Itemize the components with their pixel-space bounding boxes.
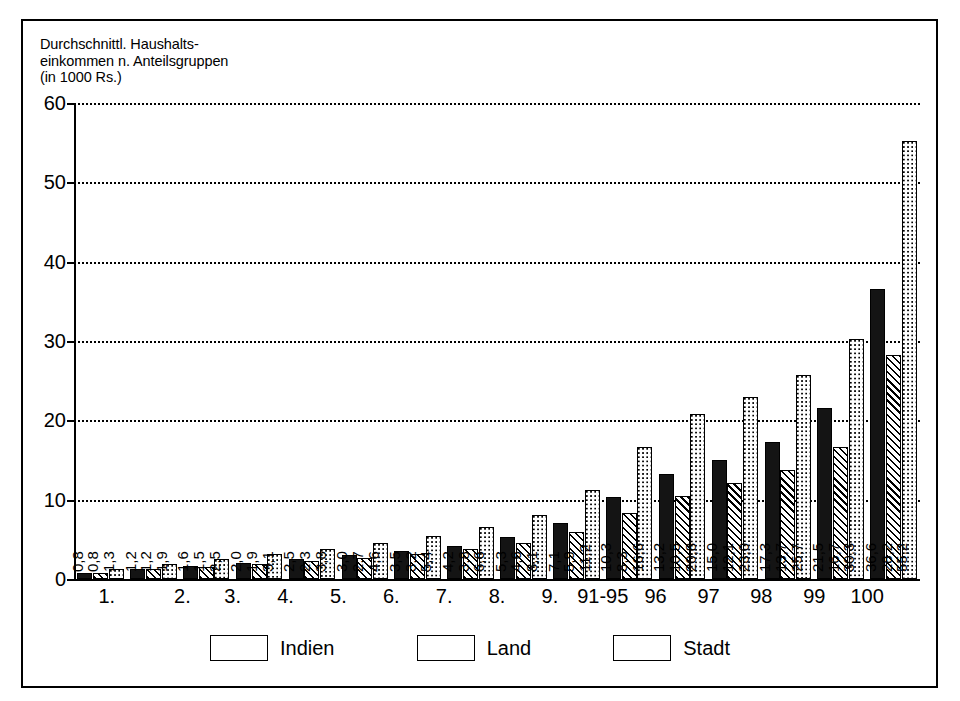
y-axis-labels: 0102030405060 <box>26 103 66 579</box>
bar-value-label: 36,6 <box>863 543 878 572</box>
bar-group: 21,516,730,3 <box>817 103 864 579</box>
bar-value-label: 13,2 <box>651 543 666 572</box>
bar-value-label: 1,2 <box>138 551 153 572</box>
x-axis-tick-label: 2. <box>174 586 191 606</box>
legend-label: Stadt <box>683 638 730 658</box>
bar-value-label: 6,6 <box>471 551 486 572</box>
bar-value-label: 1,9 <box>244 551 259 572</box>
x-axis-tick-label: 96 <box>645 586 667 606</box>
bar-value-label: 5,9 <box>561 551 576 572</box>
y-axis-tick-label: 20 <box>44 410 66 430</box>
x-axis-labels: 1.2.3.4.5.6.7.8.9.91-9596979899100 <box>74 586 920 616</box>
bar-value-label: 16,7 <box>826 543 841 572</box>
chart-figure: Durchschnittl. Haushalts- einkommen n. A… <box>0 0 960 701</box>
bar-group: 0,80,81,3 <box>77 103 124 579</box>
legend-swatch-land <box>417 635 475 661</box>
legend-swatch-indien <box>210 635 268 661</box>
bar-value-label: 11,2 <box>577 544 592 572</box>
bar-group: 36,628,255,2 <box>870 103 917 579</box>
bar-value-label: 30,3 <box>841 543 856 572</box>
legend-swatch-stadt <box>613 635 671 661</box>
y-axis-tick-label: 60 <box>44 93 66 113</box>
bar-group: 2,52,33,8 <box>289 103 336 579</box>
x-axis-tick-label: 98 <box>750 586 772 606</box>
bar-value-label: 28,2 <box>879 543 894 572</box>
x-axis-tick-label: 4. <box>277 586 294 606</box>
bar-value-label: 3,8 <box>313 551 328 572</box>
bar-value-label: 15,0 <box>704 543 719 572</box>
bar-value-label: 25,7 <box>789 543 804 572</box>
y-axis-tick-label: 10 <box>44 490 66 510</box>
bar-value-label: 4,6 <box>508 551 523 572</box>
y-axis-tick <box>67 420 74 422</box>
legend-label: Indien <box>280 638 335 658</box>
y-axis-tick-label: 50 <box>44 172 66 192</box>
bar-value-label: 1,6 <box>175 551 190 572</box>
chart-legend: IndienLandStadt <box>210 630 730 666</box>
bar-group: 1,61,52,5 <box>183 103 230 579</box>
bar-value-label: 2,5 <box>281 551 296 572</box>
bar-group: 1,21,21,9 <box>130 103 177 579</box>
bar-stadt: 55,2 <box>902 141 917 579</box>
bar-value-label: 1,2 <box>123 551 138 572</box>
bar-value-label: 23,0 <box>736 543 751 572</box>
bar-value-label: 13,7 <box>773 543 788 572</box>
bar-value-label: 7,1 <box>546 551 561 572</box>
bar-value-label: 4,2 <box>440 551 455 572</box>
bar-group: 4,23,86,6 <box>447 103 494 579</box>
plot-area: 0,80,81,31,21,21,91,61,52,52,01,93,12,52… <box>74 103 920 579</box>
y-axis-tick-label: 0 <box>55 569 66 589</box>
bar-group: 2,01,93,1 <box>236 103 283 579</box>
bar-value-label: 0,8 <box>70 551 85 572</box>
chart-title: Durchschnittl. Haushalts- einkommen n. A… <box>40 36 460 86</box>
bar-value-label: 17,3 <box>757 543 772 572</box>
bar-value-label: 2,0 <box>228 551 243 572</box>
legend-item: Land <box>417 635 532 661</box>
bar-group: 17,313,725,7 <box>765 103 812 579</box>
bar-indien: 36,6 <box>870 289 885 579</box>
x-axis-tick-label: 100 <box>850 586 883 606</box>
bar-value-label: 3,2 <box>403 551 418 572</box>
bar-group: 5,34,68,1 <box>500 103 547 579</box>
bar-value-label: 10,3 <box>598 543 613 572</box>
x-axis-tick-label: 99 <box>803 586 825 606</box>
bar-value-label: 20,8 <box>683 543 698 572</box>
bar-value-label: 1,5 <box>191 551 206 572</box>
y-axis-tick <box>67 103 74 105</box>
x-axis-tick-label: 91-95 <box>577 586 628 606</box>
bar-value-label: 3,1 <box>260 551 275 572</box>
bar-value-label: 12,1 <box>720 543 735 572</box>
legend-item: Indien <box>210 635 335 661</box>
y-axis-tick <box>67 182 74 184</box>
x-axis-tick-label: 7. <box>436 586 453 606</box>
y-axis-tick <box>67 500 74 502</box>
bar-group: 3,02,74,6 <box>342 103 389 579</box>
bar-value-label: 1,9 <box>154 551 169 572</box>
bar-value-label: 2,5 <box>207 551 222 572</box>
x-axis-tick-label: 1. <box>98 586 115 606</box>
legend-label: Land <box>487 638 532 658</box>
bar-value-label: 3,5 <box>387 551 402 572</box>
x-axis-tick-label: 8. <box>489 586 506 606</box>
bar-value-label: 2,3 <box>297 551 312 572</box>
bar-value-label: 10,5 <box>667 543 682 572</box>
bar-value-label: 8,1 <box>524 551 539 572</box>
bar-value-label: 1,3 <box>101 551 116 572</box>
bar-value-label: 0,8 <box>85 551 100 572</box>
bar-value-label: 8,3 <box>614 551 629 572</box>
bar-value-label: 55,2 <box>894 543 909 572</box>
bar-value-label: 16,6 <box>630 543 645 572</box>
y-axis-tick <box>67 262 74 264</box>
bar-value-label: 3,8 <box>456 551 471 572</box>
bar-value-label: 3,0 <box>334 551 349 572</box>
x-axis-line <box>74 579 920 581</box>
x-axis-tick-label: 6. <box>383 586 400 606</box>
bar-group: 3,53,25,4 <box>394 103 441 579</box>
bar-value-label: 2,7 <box>350 551 365 572</box>
bar-value-label: 4,6 <box>366 551 381 572</box>
x-axis-tick-label: 97 <box>697 586 719 606</box>
x-axis-tick-label: 9. <box>542 586 559 606</box>
y-axis-tick <box>67 579 74 581</box>
bar-group: 10,38,316,6 <box>606 103 653 579</box>
bar-value-label: 21,5 <box>810 543 825 572</box>
